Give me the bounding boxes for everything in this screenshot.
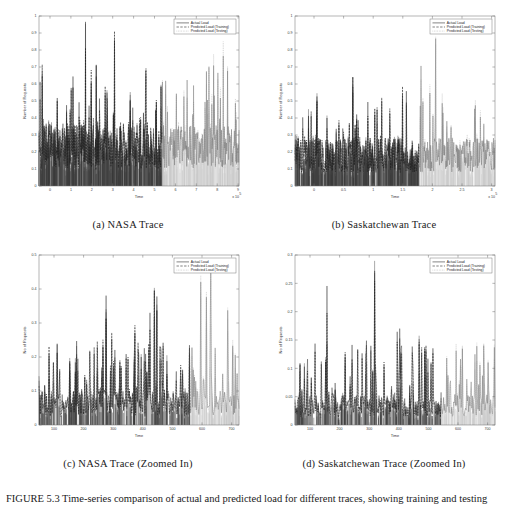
svg-text:0.1: 0.1 bbox=[32, 167, 37, 171]
svg-text:0.25: 0.25 bbox=[286, 282, 293, 286]
svg-text:0: 0 bbox=[291, 184, 293, 188]
svg-text:0: 0 bbox=[291, 423, 293, 427]
svg-text:0.4: 0.4 bbox=[32, 287, 37, 291]
svg-text:0.05: 0.05 bbox=[286, 395, 293, 399]
svg-text:0.1: 0.1 bbox=[32, 389, 37, 393]
svg-text:Predicted Load (Testing): Predicted Load (Testing) bbox=[191, 29, 228, 33]
svg-text:500: 500 bbox=[169, 427, 175, 431]
svg-text:0.8: 0.8 bbox=[32, 48, 37, 52]
svg-text:0.6: 0.6 bbox=[288, 82, 293, 86]
panel-d-caption: (d) Saskatchewan Trace (Zoomed In) bbox=[302, 458, 465, 469]
svg-text:Predicted Load (Testing): Predicted Load (Testing) bbox=[447, 268, 484, 272]
svg-text:1: 1 bbox=[70, 188, 72, 192]
svg-text:500: 500 bbox=[425, 427, 431, 431]
svg-text:300: 300 bbox=[366, 427, 372, 431]
plot-a: 00.10.20.30.40.50.60.70.80.910123456789T… bbox=[9, 4, 247, 218]
svg-text:0.9: 0.9 bbox=[32, 31, 37, 35]
figure-caption: FIGURE 5.3 Time-series comparison of act… bbox=[6, 493, 506, 506]
svg-text:0.8: 0.8 bbox=[288, 48, 293, 52]
svg-text:x 10: x 10 bbox=[232, 195, 239, 199]
panel-a: 00.10.20.30.40.50.60.70.80.910123456789T… bbox=[0, 0, 256, 239]
svg-text:0.15: 0.15 bbox=[286, 338, 293, 342]
svg-text:2.5: 2.5 bbox=[460, 188, 465, 192]
svg-text:Number of Requests: Number of Requests bbox=[22, 83, 27, 119]
svg-text:0.2: 0.2 bbox=[288, 310, 293, 314]
svg-text:1.5: 1.5 bbox=[400, 188, 405, 192]
svg-text:No of Requests: No of Requests bbox=[22, 327, 27, 354]
svg-text:Time: Time bbox=[391, 194, 400, 199]
panel-c-caption: (c) NASA Trace (Zoomed In) bbox=[63, 458, 192, 469]
svg-text:2: 2 bbox=[431, 188, 433, 192]
svg-text:0.7: 0.7 bbox=[288, 65, 293, 69]
panel-b-caption: (b) Saskatchewan Trace bbox=[332, 219, 437, 230]
svg-text:200: 200 bbox=[81, 427, 87, 431]
svg-text:7: 7 bbox=[195, 188, 197, 192]
svg-text:0.5: 0.5 bbox=[32, 99, 37, 103]
svg-text:Time: Time bbox=[135, 433, 144, 438]
svg-text:1: 1 bbox=[291, 14, 293, 18]
svg-text:100: 100 bbox=[307, 427, 313, 431]
svg-text:0.7: 0.7 bbox=[32, 65, 37, 69]
svg-text:400: 400 bbox=[396, 427, 402, 431]
plot-b: 00.10.20.30.40.50.60.70.80.9100.511.522.… bbox=[265, 4, 503, 218]
svg-text:5: 5 bbox=[239, 192, 241, 196]
svg-text:0: 0 bbox=[35, 423, 37, 427]
svg-text:100: 100 bbox=[51, 427, 57, 431]
svg-text:700: 700 bbox=[229, 427, 235, 431]
svg-text:0: 0 bbox=[49, 188, 51, 192]
plot-d: 00.050.10.150.20.250.3100200300400500600… bbox=[265, 243, 503, 457]
svg-text:Predicted Load (Testing): Predicted Load (Testing) bbox=[447, 29, 484, 33]
svg-text:0.5: 0.5 bbox=[341, 188, 346, 192]
svg-text:4: 4 bbox=[133, 188, 135, 192]
panel-a-caption: (a) NASA Trace bbox=[92, 219, 163, 230]
panel-b: 00.10.20.30.40.50.60.70.80.9100.511.522.… bbox=[256, 0, 512, 239]
svg-text:Time: Time bbox=[391, 433, 400, 438]
svg-text:0.4: 0.4 bbox=[288, 116, 293, 120]
svg-text:0.3: 0.3 bbox=[32, 321, 37, 325]
svg-text:5: 5 bbox=[495, 192, 497, 196]
svg-text:700: 700 bbox=[485, 427, 491, 431]
svg-text:Time: Time bbox=[135, 194, 144, 199]
svg-text:0.2: 0.2 bbox=[288, 150, 293, 154]
svg-text:0.3: 0.3 bbox=[288, 253, 293, 257]
panel-c: 00.10.20.30.40.5100200300400500600700Tim… bbox=[0, 239, 256, 478]
svg-text:300: 300 bbox=[110, 427, 116, 431]
svg-text:3: 3 bbox=[112, 188, 114, 192]
svg-text:No of Requests: No of Requests bbox=[278, 327, 283, 354]
svg-text:5: 5 bbox=[154, 188, 156, 192]
plot-a-svg: 00.10.20.30.40.50.60.70.80.910123456789T… bbox=[9, 4, 247, 218]
svg-text:0.1: 0.1 bbox=[288, 167, 293, 171]
svg-text:0: 0 bbox=[35, 184, 37, 188]
panel-grid: 00.10.20.30.40.50.60.70.80.910123456789T… bbox=[0, 0, 512, 478]
svg-text:0.4: 0.4 bbox=[32, 116, 37, 120]
svg-text:0.2: 0.2 bbox=[32, 355, 37, 359]
svg-text:200: 200 bbox=[337, 427, 343, 431]
svg-text:600: 600 bbox=[199, 427, 205, 431]
plot-b-svg: 00.10.20.30.40.50.60.70.80.9100.511.522.… bbox=[265, 4, 503, 218]
figure-5-3: 00.10.20.30.40.50.60.70.80.910123456789T… bbox=[0, 0, 512, 506]
svg-text:0.9: 0.9 bbox=[288, 31, 293, 35]
svg-text:6: 6 bbox=[174, 188, 176, 192]
svg-text:8: 8 bbox=[216, 188, 218, 192]
svg-text:0.5: 0.5 bbox=[32, 253, 37, 257]
plot-c: 00.10.20.30.40.5100200300400500600700Tim… bbox=[9, 243, 247, 457]
svg-text:0.2: 0.2 bbox=[32, 150, 37, 154]
svg-text:0.3: 0.3 bbox=[288, 133, 293, 137]
svg-text:0.3: 0.3 bbox=[32, 133, 37, 137]
svg-text:0.5: 0.5 bbox=[288, 99, 293, 103]
svg-text:1: 1 bbox=[372, 188, 374, 192]
panel-d: 00.050.10.150.20.250.3100200300400500600… bbox=[256, 239, 512, 478]
plot-c-svg: 00.10.20.30.40.5100200300400500600700Tim… bbox=[9, 243, 247, 457]
svg-text:0: 0 bbox=[313, 188, 315, 192]
svg-text:x 10: x 10 bbox=[488, 195, 495, 199]
svg-text:3: 3 bbox=[491, 188, 493, 192]
svg-text:1: 1 bbox=[35, 14, 37, 18]
svg-text:600: 600 bbox=[455, 427, 461, 431]
svg-text:Number of Requests: Number of Requests bbox=[278, 83, 283, 119]
svg-text:0.6: 0.6 bbox=[32, 82, 37, 86]
plot-d-svg: 00.050.10.150.20.250.3100200300400500600… bbox=[265, 243, 503, 457]
svg-text:0.1: 0.1 bbox=[288, 367, 293, 371]
svg-text:400: 400 bbox=[140, 427, 146, 431]
svg-text:Predicted Load (Testing): Predicted Load (Testing) bbox=[191, 268, 228, 272]
svg-text:2: 2 bbox=[91, 188, 93, 192]
